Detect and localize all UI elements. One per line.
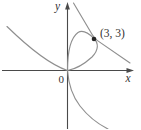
math-figure: y x 0 (3, 3) — [0, 0, 141, 129]
folium-diagram: y x 0 (3, 3) — [0, 0, 141, 129]
point-coordinates-label: (3, 3) — [100, 27, 125, 40]
y-axis-label: y — [54, 0, 61, 13]
y-axis-arrowhead-icon — [65, 2, 70, 10]
x-axis-label: x — [125, 72, 132, 84]
curve-left-branch — [7, 27, 68, 71]
point-dot — [92, 37, 97, 42]
curve-lower-branch — [68, 71, 109, 130]
origin-label: 0 — [59, 73, 65, 85]
